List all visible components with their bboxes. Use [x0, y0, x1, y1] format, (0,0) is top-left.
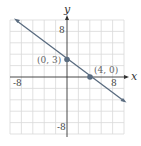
- x-tick-8: 8: [111, 78, 117, 88]
- axes: [10, 15, 129, 137]
- point-label-4-0: (4, 0): [94, 65, 118, 75]
- x-axis-label: x: [131, 70, 138, 83]
- x-axis-arrow-icon: [124, 75, 129, 79]
- y-axis-label: y: [63, 3, 71, 16]
- y-tick-8: 8: [59, 25, 65, 35]
- x-tick-neg8: -8: [13, 78, 22, 88]
- coordinate-plane: x y -8 8 8 -8 (0, 3) (4, 0): [0, 0, 141, 146]
- point-label-0-3: (0, 3): [37, 55, 61, 65]
- y-tick-neg8: -8: [57, 122, 66, 132]
- point-0-3: [64, 57, 70, 63]
- point-4-0: [87, 74, 93, 80]
